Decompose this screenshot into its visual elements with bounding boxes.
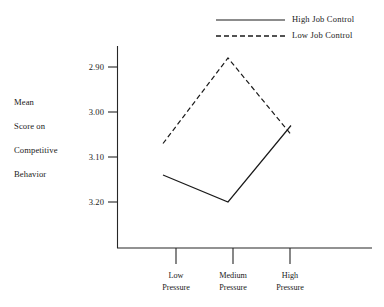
- x-tick-label-medium-pressure-line-2: Pressure: [219, 283, 247, 292]
- x-tick-label-high-pressure-line-2: Pressure: [276, 283, 304, 292]
- x-axis-ticks: [176, 248, 290, 264]
- x-tick-label-medium-pressure: Medium Pressure: [203, 270, 263, 294]
- series-high-job-control: [163, 126, 291, 203]
- x-tick-label-high-pressure: High Pressure: [260, 270, 320, 294]
- legend-label-low-job-control: Low Job Control: [292, 31, 353, 40]
- y-tick-label-320: 3.20: [70, 198, 104, 207]
- y-axis-label-line-3: Competitive: [14, 146, 58, 155]
- y-tick-label-300: 3.00: [70, 108, 104, 117]
- y-tick-label-310: 3.10: [70, 153, 104, 162]
- y-axis-label-line-4: Behavior: [14, 170, 46, 179]
- x-tick-label-low-pressure-line-1: Low: [168, 271, 183, 280]
- legend-label-high-job-control: High Job Control: [292, 15, 354, 24]
- y-axis-label-line-2: Score on: [14, 122, 45, 131]
- y-axis-label-line-1: Mean: [14, 98, 34, 107]
- y-axis-ticks: [108, 67, 117, 202]
- chart-figure: High Job Control Low Job Control 2.90 3.…: [0, 0, 384, 307]
- y-tick-label-290: 2.90: [70, 63, 104, 72]
- x-tick-label-low-pressure: Low Pressure: [146, 270, 206, 294]
- x-tick-label-low-pressure-line-2: Pressure: [162, 283, 190, 292]
- x-tick-label-medium-pressure-line-1: Medium: [219, 271, 247, 280]
- series-low-job-control: [163, 58, 291, 144]
- x-tick-label-high-pressure-line-1: High: [282, 271, 298, 280]
